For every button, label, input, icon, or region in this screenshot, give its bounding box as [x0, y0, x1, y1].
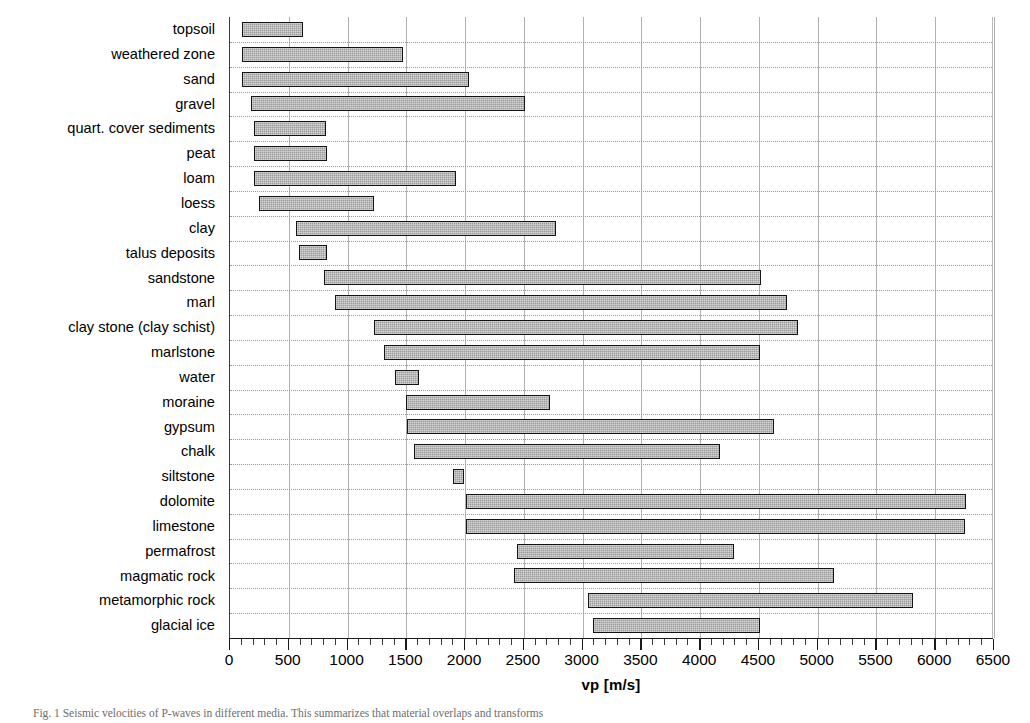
x-tick-minor [370, 639, 371, 645]
x-tick-major [699, 639, 700, 650]
x-tick-minor [958, 639, 959, 645]
x-tick-major [817, 639, 818, 650]
x-tick-major [405, 639, 406, 650]
range-bar [254, 146, 327, 161]
range-bar [514, 568, 834, 583]
x-tick-minor [276, 639, 277, 645]
horizontal-gridline [230, 588, 992, 589]
range-bar [251, 96, 525, 111]
vertical-gridline [876, 17, 877, 638]
x-tick-minor [499, 639, 500, 645]
x-tick-minor [311, 639, 312, 645]
x-tick-minor [300, 639, 301, 645]
category-label: clay stone (clay schist) [0, 320, 215, 335]
category-label: marlstone [0, 345, 215, 360]
horizontal-gridline [230, 613, 992, 614]
x-tick-minor [394, 639, 395, 645]
vertical-gridline [994, 17, 995, 638]
horizontal-gridline [230, 241, 992, 242]
range-bar [517, 544, 734, 559]
category-label: loam [0, 171, 215, 186]
range-bar [407, 419, 773, 434]
category-label: moraine [0, 395, 215, 410]
x-tick-major [934, 639, 935, 650]
range-bar [259, 196, 374, 211]
x-tick-minor [335, 639, 336, 645]
x-tick-minor [546, 639, 547, 645]
x-tick-minor [711, 639, 712, 645]
figure-caption: Fig. 1 Seismic velocities of P-waves in … [33, 707, 1008, 721]
category-label: talus deposits [0, 246, 215, 261]
category-label: magmatic rock [0, 569, 215, 584]
x-tick-minor [593, 639, 594, 645]
x-tick-minor [805, 639, 806, 645]
category-label: metamorphic rock [0, 593, 215, 608]
category-label: chalk [0, 444, 215, 459]
horizontal-gridline [230, 563, 992, 564]
x-tick-minor [687, 639, 688, 645]
x-tick-minor [887, 639, 888, 645]
x-tick-major [640, 639, 641, 650]
horizontal-gridline [230, 265, 992, 266]
x-tick-major [993, 639, 994, 650]
category-label: permafrost [0, 544, 215, 559]
x-tick-minor [746, 639, 747, 645]
category-label: marl [0, 295, 215, 310]
x-tick-minor [793, 639, 794, 645]
horizontal-gridline [230, 67, 992, 68]
horizontal-gridline [230, 315, 992, 316]
vertical-gridline [818, 17, 819, 638]
x-tick-minor [264, 639, 265, 645]
x-tick-minor [476, 639, 477, 645]
x-tick-major [229, 639, 230, 650]
x-tick-minor [452, 639, 453, 645]
x-tick-minor [417, 639, 418, 645]
category-label: weathered zone [0, 47, 215, 62]
x-tick-minor [899, 639, 900, 645]
category-label: glacial ice [0, 618, 215, 633]
x-tick-minor [828, 639, 829, 645]
x-axis-title: vp [m/s] [229, 676, 993, 693]
vertical-gridline [935, 17, 936, 638]
horizontal-gridline [230, 216, 992, 217]
range-bar [593, 618, 760, 633]
x-tick-minor [629, 639, 630, 645]
horizontal-gridline [230, 464, 992, 465]
range-bar [254, 171, 456, 186]
x-tick-minor [605, 639, 606, 645]
range-bar [296, 221, 556, 236]
range-bar [588, 593, 913, 608]
range-bar [453, 469, 464, 484]
category-label: peat [0, 146, 215, 161]
x-tick-minor [946, 639, 947, 645]
range-bar [406, 395, 549, 410]
range-bar [242, 22, 303, 37]
x-tick-major [347, 639, 348, 650]
x-tick-minor [676, 639, 677, 645]
x-tick-minor [441, 639, 442, 645]
horizontal-gridline [230, 539, 992, 540]
x-tick-minor [558, 639, 559, 645]
category-label: siltstone [0, 469, 215, 484]
range-bar [466, 494, 966, 509]
x-tick-minor [617, 639, 618, 645]
range-bar [384, 345, 760, 360]
x-tick-major [875, 639, 876, 650]
category-label: gypsum [0, 420, 215, 435]
x-tick-minor [323, 639, 324, 645]
category-label: limestone [0, 519, 215, 534]
range-bar [374, 320, 798, 335]
category-label: sand [0, 72, 215, 87]
x-tick-minor [969, 639, 970, 645]
x-tick-major [758, 639, 759, 650]
x-tick-minor [535, 639, 536, 645]
range-bar [242, 47, 403, 62]
x-tick-minor [511, 639, 512, 645]
x-tick-minor [922, 639, 923, 645]
x-tick-major [582, 639, 583, 650]
x-tick-major [523, 639, 524, 650]
x-tick-minor [734, 639, 735, 645]
horizontal-gridline [230, 514, 992, 515]
range-bar [324, 270, 761, 285]
x-tick-minor [382, 639, 383, 645]
